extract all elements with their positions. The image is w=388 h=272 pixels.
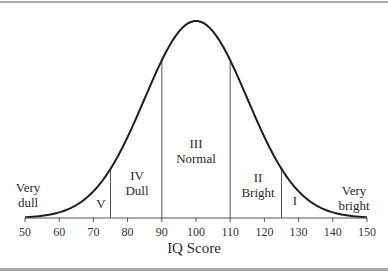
x-axis-ticks xyxy=(25,218,367,222)
tick-label-50: 50 xyxy=(10,225,40,240)
x-axis-title: IQ Score xyxy=(0,240,388,257)
region-label-iv-dull: IV Dull xyxy=(120,168,154,198)
iv-numeral: IV xyxy=(120,168,154,183)
normal-text: Normal xyxy=(170,151,222,166)
tick-label-70: 70 xyxy=(78,225,108,240)
very-bright-line-1: Very xyxy=(334,183,374,198)
tick-label-100: 100 xyxy=(181,225,211,240)
region-label-very-dull: Very dull xyxy=(8,180,48,210)
tick-label-120: 120 xyxy=(249,225,279,240)
tick-label-60: 60 xyxy=(44,225,74,240)
very-dull-line-1: Very xyxy=(8,180,48,195)
tick-label-80: 80 xyxy=(113,225,143,240)
region-label-iii-normal: III Normal xyxy=(170,136,222,166)
dull-text: Dull xyxy=(120,183,154,198)
region-label-ii-bright: II Bright xyxy=(236,170,280,200)
tick-label-150: 150 xyxy=(352,225,382,240)
tick-label-140: 140 xyxy=(318,225,348,240)
bright-text: Bright xyxy=(236,185,280,200)
tick-label-90: 90 xyxy=(147,225,177,240)
tick-label-130: 130 xyxy=(284,225,314,240)
iii-numeral: III xyxy=(170,136,222,151)
normal-curve xyxy=(25,21,367,217)
very-dull-line-2: dull xyxy=(8,195,48,210)
region-label-v: V xyxy=(94,196,108,211)
very-bright-line-2: bright xyxy=(334,198,374,213)
tick-label-110: 110 xyxy=(215,225,245,240)
region-label-i: I xyxy=(288,193,302,208)
region-label-very-bright: Very bright xyxy=(334,183,374,213)
ii-numeral: II xyxy=(236,170,280,185)
frame-bottom-border xyxy=(0,268,388,271)
